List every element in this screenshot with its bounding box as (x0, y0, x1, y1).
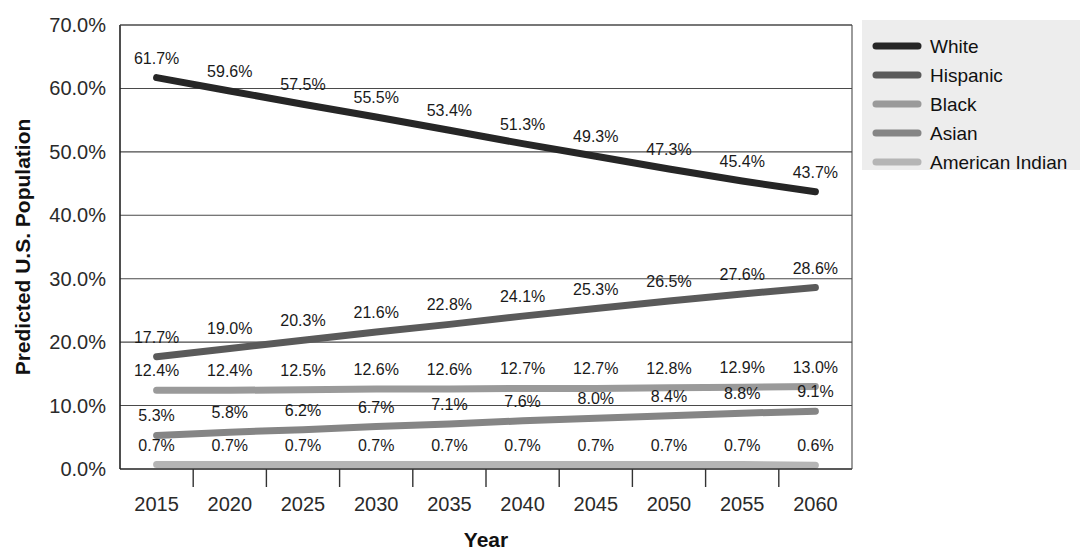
data-label-white: 59.6% (207, 63, 252, 80)
legend-label: Hispanic (930, 65, 1003, 86)
data-label-white: 55.5% (354, 89, 399, 106)
data-label-black: 12.4% (207, 362, 252, 379)
legend-label: American Indian (930, 152, 1067, 173)
y-axis-tick-label: 0.0% (60, 458, 106, 480)
data-label-black: 12.9% (720, 359, 765, 376)
data-label-white: 47.3% (646, 141, 691, 158)
data-label-white: 61.7% (134, 50, 179, 67)
series-line-white[interactable] (157, 78, 816, 192)
data-label-black: 12.6% (354, 361, 399, 378)
data-label-american-indian: 0.7% (138, 437, 174, 454)
chart-container: Predicted U.S. PopulationYear61.7%59.6%5… (0, 0, 1086, 558)
y-axis-title: Predicted U.S. Population (11, 119, 34, 376)
data-label-hispanic: 19.0% (207, 320, 252, 337)
data-label-white: 43.7% (793, 164, 838, 181)
y-axis-tick-label: 40.0% (49, 204, 106, 226)
data-label-hispanic: 28.6% (793, 260, 838, 277)
data-label-american-indian: 0.7% (212, 437, 248, 454)
x-axis-tick-label: 2040 (500, 493, 545, 515)
data-label-asian: 9.1% (797, 383, 833, 400)
x-axis-tick-label: 2030 (354, 493, 399, 515)
data-label-hispanic: 26.5% (646, 273, 691, 290)
data-label-hispanic: 20.3% (280, 312, 325, 329)
data-label-hispanic: 27.6% (720, 266, 765, 283)
data-label-american-indian: 0.6% (797, 437, 833, 454)
data-label-black: 12.7% (500, 360, 545, 377)
data-label-asian: 8.8% (724, 385, 760, 402)
legend-label: Black (930, 94, 977, 115)
population-projection-line-chart: Predicted U.S. PopulationYear61.7%59.6%5… (0, 0, 1086, 558)
data-label-hispanic: 17.7% (134, 329, 179, 346)
y-axis-tick-label: 50.0% (49, 141, 106, 163)
y-axis-tick-label: 30.0% (49, 268, 106, 290)
data-label-black: 12.5% (280, 362, 325, 379)
x-axis-title: Year (464, 528, 508, 551)
x-axis-tick-label: 2055 (720, 493, 765, 515)
data-label-white: 45.4% (720, 153, 765, 170)
x-axis-tick-label: 2045 (574, 493, 619, 515)
data-label-asian: 8.4% (651, 388, 687, 405)
data-label-american-indian: 0.7% (651, 437, 687, 454)
data-label-american-indian: 0.7% (504, 437, 540, 454)
data-label-asian: 6.2% (285, 402, 321, 419)
data-label-asian: 6.7% (358, 399, 394, 416)
data-label-black: 12.6% (427, 361, 472, 378)
data-label-hispanic: 22.8% (427, 296, 472, 313)
x-axis-tick-label: 2025 (281, 493, 326, 515)
x-axis-tick-label: 2020 (208, 493, 253, 515)
data-label-american-indian: 0.7% (578, 437, 614, 454)
series-line-hispanic[interactable] (157, 288, 816, 357)
data-label-hispanic: 21.6% (354, 304, 399, 321)
data-label-asian: 7.6% (504, 393, 540, 410)
data-label-white: 49.3% (573, 128, 618, 145)
data-label-american-indian: 0.7% (724, 437, 760, 454)
data-label-black: 12.7% (573, 360, 618, 377)
data-label-asian: 7.1% (431, 396, 467, 413)
data-label-hispanic: 24.1% (500, 288, 545, 305)
data-label-black: 12.8% (646, 360, 691, 377)
x-axis-tick-label: 2015 (134, 493, 179, 515)
y-axis-tick-label: 60.0% (49, 77, 106, 99)
data-label-american-indian: 0.7% (431, 437, 467, 454)
data-label-asian: 5.3% (138, 407, 174, 424)
data-label-hispanic: 25.3% (573, 281, 618, 298)
legend-label: Asian (930, 123, 978, 144)
x-axis-tick-label: 2035 (427, 493, 472, 515)
data-label-asian: 8.0% (578, 390, 614, 407)
legend-label: White (930, 36, 979, 57)
series-line-asian[interactable] (157, 411, 816, 435)
y-axis-tick-label: 10.0% (49, 395, 106, 417)
data-label-asian: 5.8% (212, 404, 248, 421)
x-axis-tick-label: 2060 (793, 493, 838, 515)
data-label-white: 53.4% (427, 102, 472, 119)
data-label-white: 51.3% (500, 116, 545, 133)
data-label-american-indian: 0.7% (358, 437, 394, 454)
x-axis-tick-label: 2050 (647, 493, 692, 515)
series-group (157, 78, 816, 466)
y-axis-tick-label: 20.0% (49, 331, 106, 353)
y-axis-tick-label: 70.0% (49, 14, 106, 36)
data-label-american-indian: 0.7% (285, 437, 321, 454)
data-label-black: 12.4% (134, 362, 179, 379)
series-line-american-indian[interactable] (157, 465, 816, 466)
data-label-black: 13.0% (793, 359, 838, 376)
data-label-white: 57.5% (280, 76, 325, 93)
series-line-black[interactable] (157, 387, 816, 391)
legend[interactable]: WhiteHispanicBlackAsianAmerican Indian (862, 20, 1080, 173)
